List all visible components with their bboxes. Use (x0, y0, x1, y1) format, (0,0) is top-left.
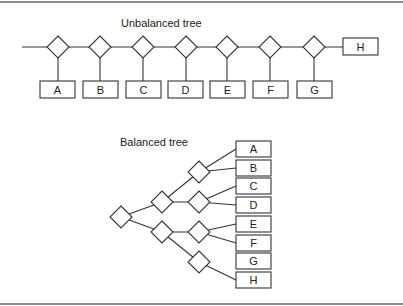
leaf-label: C (140, 84, 148, 96)
internal-node-diamond (188, 161, 210, 183)
leaf-label: F (267, 84, 274, 96)
leaf-label: B (97, 84, 104, 96)
leaf-node: G (297, 81, 332, 98)
internal-node-diamond (216, 36, 238, 58)
internal-node-diamond (175, 36, 197, 58)
leaf-label: H (357, 41, 365, 53)
internal-node-diamond (303, 36, 325, 58)
balanced-tree: Balanced tree A B (110, 136, 271, 288)
tree-comparison-figure: Unbalanced tree A B C (0, 0, 403, 306)
leaf-node: D (168, 81, 203, 98)
leaf-label: A (250, 143, 258, 155)
leaf-node: G (236, 253, 271, 269)
internal-node-diamond (188, 251, 210, 273)
unbalanced-tree-title: Unbalanced tree (121, 17, 202, 29)
leaf-node: B (83, 81, 118, 98)
internal-node-diamond (188, 191, 210, 213)
leaf-label: E (250, 218, 257, 230)
leaf-node: F (236, 235, 271, 251)
leaf-label: B (250, 162, 257, 174)
internal-node-diamond (151, 221, 173, 243)
leaf-label: G (249, 255, 258, 267)
leaf-node: E (210, 81, 245, 98)
internal-node-diamond (151, 191, 173, 213)
unbalanced-tree: Unbalanced tree A B C (22, 17, 378, 98)
leaf-label: E (224, 84, 231, 96)
leaf-node: H (236, 272, 271, 288)
leaf-label: C (250, 180, 258, 192)
leaf-node: F (253, 81, 288, 98)
internal-node-diamond (188, 221, 210, 243)
root-node-diamond (110, 206, 132, 228)
leaf-node: B (236, 160, 271, 176)
leaf-label: F (250, 237, 257, 249)
diagram-canvas: Unbalanced tree A B C (0, 0, 403, 306)
internal-node-diamond (89, 36, 111, 58)
leaf-label: G (310, 84, 319, 96)
leaf-node: A (236, 141, 271, 157)
internal-node-diamond (132, 36, 154, 58)
leaf-label: D (182, 84, 190, 96)
leaf-node: D (236, 197, 271, 213)
leaf-label: A (54, 84, 62, 96)
leaf-label: D (250, 199, 258, 211)
leaf-node-end: H (343, 38, 378, 55)
balanced-tree-title: Balanced tree (120, 136, 188, 148)
internal-node-diamond (47, 36, 69, 58)
internal-node-diamond (259, 36, 281, 58)
leaf-node: A (40, 81, 75, 98)
leaf-node: E (236, 216, 271, 232)
leaf-node: C (126, 81, 161, 98)
leaf-node: C (236, 178, 271, 194)
leaf-label: H (250, 274, 258, 286)
